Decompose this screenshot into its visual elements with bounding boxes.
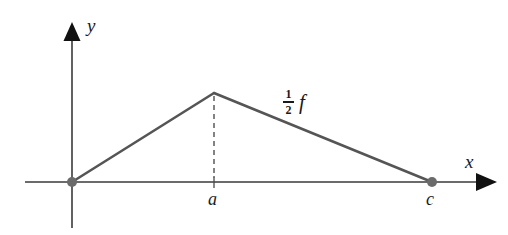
- figure-canvas: y x a c 1 2 f: [0, 0, 508, 235]
- marker-dot-origin: [67, 177, 77, 187]
- curve-label: 1 2 f: [283, 88, 305, 116]
- fraction-numerator: 1: [285, 88, 293, 101]
- curve-segment-falling: [214, 93, 432, 182]
- x-axis-label: x: [465, 152, 473, 171]
- tick-label-c: c: [426, 190, 434, 208]
- y-axis-label: y: [87, 16, 95, 35]
- function-name-label: f: [299, 92, 305, 113]
- fraction-denominator: 2: [285, 103, 293, 116]
- y-axis-arrowhead-icon: [64, 22, 81, 41]
- curve-segment-rising: [72, 93, 214, 182]
- tick-label-a: a: [208, 190, 217, 208]
- one-half-fraction: 1 2: [283, 88, 294, 116]
- marker-dot-c: [427, 177, 437, 187]
- x-axis-arrowhead-icon: [476, 173, 497, 191]
